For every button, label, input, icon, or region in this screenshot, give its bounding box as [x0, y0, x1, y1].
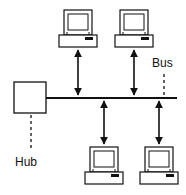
computer-icon — [115, 10, 153, 47]
computer-icon — [140, 147, 178, 184]
hub-box — [14, 82, 46, 113]
computer-icon — [59, 10, 97, 47]
hub-label: Hub — [15, 155, 37, 169]
bus-topology-diagram: Bus Hub — [0, 0, 186, 195]
computer-icon — [85, 147, 123, 184]
bus-label: Bus — [152, 56, 173, 70]
